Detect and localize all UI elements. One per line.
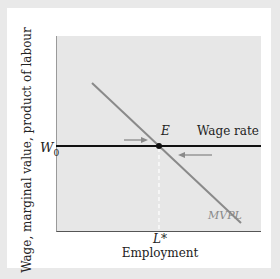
arrow-left-icon <box>178 152 212 158</box>
equilibrium-label: E <box>161 124 170 138</box>
w0-sub: 0 <box>53 148 59 158</box>
mvpl-label: MVPL <box>208 209 242 222</box>
mvpl-line <box>92 83 241 223</box>
y-axis-label: Wage, marginal value, product of labour <box>20 27 34 273</box>
y-tick-w0: W0 <box>40 140 59 158</box>
w0-main: W <box>40 140 53 155</box>
wage-rate-label: Wage rate <box>197 124 259 138</box>
x-tick-lstar: L* <box>153 232 167 246</box>
x-axis-label: Employment <box>122 246 199 260</box>
equilibrium-point <box>156 143 162 149</box>
arrow-right-icon <box>124 137 148 143</box>
